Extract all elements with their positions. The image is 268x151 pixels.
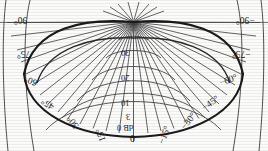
db-label-30: 30 xyxy=(121,48,130,58)
db-label-10: 10 xyxy=(121,98,130,108)
angle-label-75-left: 75° xyxy=(17,49,30,59)
angle-label-minus75-right: −75° xyxy=(232,49,251,59)
angle-label-minus90-right: −90° xyxy=(236,15,255,25)
angle-label-0-center: 0 xyxy=(130,133,135,144)
db-label-0: dB 0 xyxy=(117,123,133,133)
angle-label-90-left: 90° xyxy=(14,15,27,25)
db-label-20: 20 xyxy=(121,73,130,83)
apex-tick-marks xyxy=(103,2,164,22)
db-label-3: 3 xyxy=(126,112,130,122)
polar-radiation-pattern-chart: 90° 75° 60° 45° 30° 15° 0 −15° −30° −45°… xyxy=(0,0,268,151)
